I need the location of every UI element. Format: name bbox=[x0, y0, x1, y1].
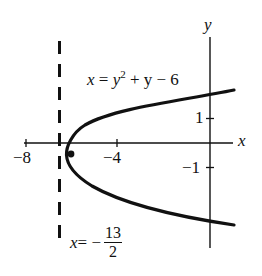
eq-equals: = bbox=[95, 70, 113, 89]
line-eq-lhs: x bbox=[70, 234, 78, 251]
vertex-dot bbox=[68, 151, 75, 158]
parabola-curve bbox=[66, 90, 234, 225]
parabola-equation-label: x = y2 + y − 6 bbox=[87, 71, 179, 88]
parabola-diagram: y x −8 −4 1 −1 x = y2 + y − 6 x = − 13 2 bbox=[0, 0, 262, 276]
fraction-numerator: 13 bbox=[104, 225, 122, 243]
y-tick-label-minus-1: −1 bbox=[182, 159, 200, 176]
fraction-denominator: 2 bbox=[109, 243, 117, 260]
y-tick-label-1: 1 bbox=[195, 109, 204, 126]
line-eq-equals: = − bbox=[78, 234, 101, 251]
eq-rest: + y − 6 bbox=[126, 70, 179, 89]
eq-lhs: x bbox=[87, 70, 95, 89]
y-axis-label: y bbox=[204, 16, 212, 33]
fraction: 13 2 bbox=[104, 225, 122, 260]
dashed-line-equation-label: x = − 13 2 bbox=[70, 225, 122, 260]
x-tick-label-minus-8: −8 bbox=[13, 149, 31, 166]
x-axis-label: x bbox=[238, 132, 246, 149]
x-tick-label-minus-4: −4 bbox=[103, 149, 121, 166]
plot-area bbox=[0, 0, 262, 276]
